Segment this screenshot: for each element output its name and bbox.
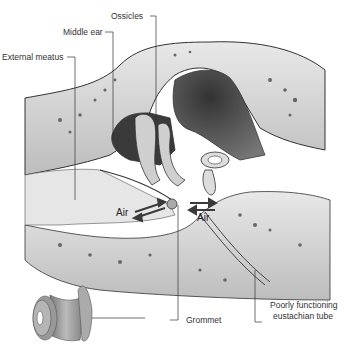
label-middle-ear: Middle ear — [63, 27, 103, 37]
label-grommet: Grommet — [186, 315, 221, 325]
grommet-in-situ — [167, 199, 177, 209]
grommet-illustration — [33, 286, 92, 341]
label-eustachian-line2: eustachian tube — [273, 311, 333, 321]
label-ossicles: Ossicles — [111, 11, 143, 21]
label-air-right: Air — [197, 212, 209, 223]
label-external-meatus: External meatus — [2, 52, 63, 62]
label-eustachian-line1: Poorly functioning — [270, 300, 338, 310]
label-air-left: Air — [116, 207, 128, 218]
